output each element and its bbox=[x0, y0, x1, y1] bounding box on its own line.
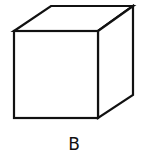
cube-front-face bbox=[14, 31, 98, 118]
figure-label: B bbox=[0, 134, 148, 154]
